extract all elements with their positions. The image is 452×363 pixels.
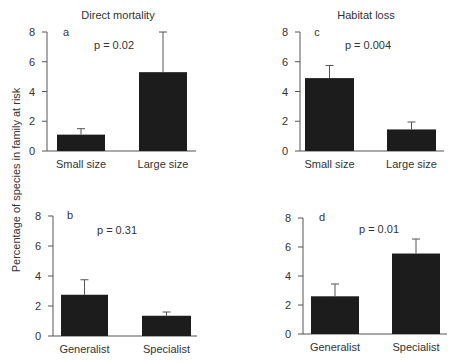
category-label: Generalist bbox=[310, 341, 360, 353]
p-value-annotation: p = 0.004 bbox=[345, 39, 391, 51]
category-label: Generalist bbox=[59, 343, 109, 355]
y-tick-label: 2 bbox=[282, 115, 288, 127]
y-tick-label: 4 bbox=[35, 270, 41, 282]
panel-letter: d bbox=[319, 211, 325, 223]
y-tick-label: 6 bbox=[29, 56, 35, 68]
category-label: Specialist bbox=[143, 343, 190, 355]
y-tick-label: 8 bbox=[29, 26, 35, 38]
y-tick-label: 4 bbox=[282, 86, 288, 98]
bar bbox=[305, 78, 354, 151]
panel-letter: a bbox=[63, 26, 70, 38]
p-value-annotation: p = 0.01 bbox=[359, 223, 399, 235]
bar bbox=[139, 72, 187, 151]
p-value-annotation: p = 0.02 bbox=[94, 39, 134, 51]
category-label: Small size bbox=[56, 158, 106, 170]
bar bbox=[142, 316, 191, 336]
y-tick-label: 4 bbox=[285, 270, 291, 282]
y-tick-label: 6 bbox=[35, 240, 41, 252]
panel-letter: b bbox=[67, 209, 73, 221]
y-tick-label: 0 bbox=[285, 328, 291, 340]
y-tick-label: 6 bbox=[285, 241, 291, 253]
bar bbox=[57, 135, 105, 151]
category-label: Specialist bbox=[392, 341, 439, 353]
p-value-annotation: p = 0.31 bbox=[97, 224, 137, 236]
y-tick-label: 6 bbox=[282, 56, 288, 68]
category-label: Small size bbox=[304, 158, 354, 170]
y-tick-label: 0 bbox=[282, 145, 288, 157]
y-tick-label: 8 bbox=[35, 210, 41, 222]
bar bbox=[61, 295, 108, 336]
bar bbox=[311, 296, 359, 334]
panel-title: Direct mortality bbox=[81, 9, 155, 21]
figure: Percentage of species in family at risk … bbox=[0, 0, 452, 363]
y-tick-label: 8 bbox=[285, 212, 291, 224]
panel-title: Habitat loss bbox=[337, 9, 395, 21]
y-tick-label: 2 bbox=[29, 115, 35, 127]
y-tick-label: 2 bbox=[35, 300, 41, 312]
category-label: Large size bbox=[386, 158, 437, 170]
bar bbox=[392, 254, 440, 334]
y-tick-label: 0 bbox=[35, 330, 41, 342]
y-axis-label: Percentage of species in family at risk bbox=[10, 87, 22, 272]
y-tick-label: 0 bbox=[29, 145, 35, 157]
bar bbox=[387, 129, 436, 151]
panel-letter: c bbox=[314, 26, 320, 38]
y-tick-label: 8 bbox=[282, 26, 288, 38]
category-label: Large size bbox=[138, 158, 189, 170]
y-tick-label: 4 bbox=[29, 86, 35, 98]
y-tick-label: 2 bbox=[285, 299, 291, 311]
